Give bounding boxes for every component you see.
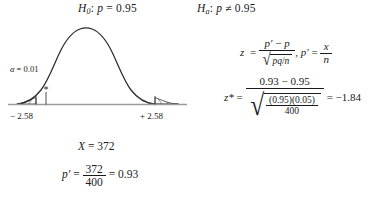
z-second-equals: = [311, 46, 317, 58]
pprime-statement: p′ = 372 400 = 0.93 [62, 163, 138, 188]
z-radicand-n: n [285, 56, 290, 66]
alpha-value: = 0.01 [17, 64, 39, 74]
z-denominator: √pq/n [259, 51, 295, 69]
null-hypothesis-relation: = [106, 2, 113, 14]
radical-sign-icon: √ [263, 51, 271, 69]
alt-hypothesis-label: Ha: p ≠ 0.95 [197, 2, 256, 16]
null-hypothesis-symbol: H [78, 2, 87, 14]
z-second-denominator: n [320, 54, 332, 66]
pprime-prime: ′ [68, 168, 71, 180]
zstar-fraction: 0.93 − 0.95 √ (0.95)(0.05) 400 [246, 76, 324, 120]
z-fraction: p′ − p √pq/n [259, 38, 295, 69]
x-equals: = [88, 140, 95, 152]
right-rejection-region [155, 98, 178, 105]
zstar-inner-denominator: 400 [266, 106, 318, 116]
null-hypothesis-parameter: p [97, 2, 103, 14]
hypothesis-test-figure: H0: p = 0.95 Ha: p ≠ 0.95 [0, 0, 387, 199]
x-symbol: X [78, 140, 85, 152]
pprime-fraction: 372 400 [83, 163, 106, 188]
zstar-numerator-minus: − [282, 75, 288, 87]
right-critical-value-label: + 2.58 [140, 111, 163, 121]
z-equals: = [250, 46, 256, 58]
zstar-numerator-left: 0.93 [260, 75, 279, 87]
zstar-computation: z* = 0.93 − 0.95 √ (0.95)(0.05) 400 = [224, 76, 361, 120]
z-second-pprime: p′ [301, 46, 309, 58]
alt-hypothesis-parameter: p [216, 2, 222, 14]
zstar-symbol: z* [224, 91, 234, 103]
pprime-result-equals: = [109, 168, 116, 180]
zstar-radicand: (0.95)(0.05) 400 [264, 93, 321, 116]
z-formula: z = p′ − p √pq/n , p′ = x n [240, 38, 332, 69]
z-formula-comma: , [295, 46, 298, 58]
null-hypothesis-colon: : [91, 2, 94, 14]
z-second-fraction: x n [320, 41, 332, 65]
alpha-label: α = 0.01 [10, 64, 38, 74]
pprime-denominator: 400 [83, 176, 106, 188]
pprime-equals: = [73, 168, 80, 180]
null-hypothesis-value: 0.95 [116, 2, 137, 14]
x-statement: X = 372 [78, 140, 115, 152]
x-value: 372 [97, 140, 114, 152]
z-numerator-p: p [284, 37, 290, 49]
zstar-result: −1.84 [336, 91, 361, 103]
zstar-inner-numerator: (0.95)(0.05) [266, 95, 318, 106]
zstar-inner-fraction: (0.95)(0.05) 400 [266, 95, 318, 116]
alt-hypothesis-relation: ≠ [225, 2, 232, 14]
alt-hypothesis-value: 0.95 [235, 2, 256, 14]
pprime-numerator: 372 [83, 163, 106, 176]
z-radicand: pq/n [270, 54, 292, 66]
z-radicand-pq: pq [272, 56, 282, 66]
zstar-numerator-right: 0.95 [291, 75, 310, 87]
null-hypothesis-label: H0: p = 0.95 [78, 2, 137, 16]
zstar-equals: = [237, 91, 243, 103]
normal-curve-path [17, 28, 178, 104]
z-symbol: z [240, 46, 245, 58]
zstar-inner-second: (0.05) [292, 95, 315, 105]
z-second-numerator: x [320, 41, 332, 54]
alt-hypothesis-colon: : [210, 2, 213, 14]
zstar-denominator: √ (0.95)(0.05) 400 [246, 89, 324, 121]
zstar-result-equals: = [327, 91, 333, 103]
alt-hypothesis-symbol: H [197, 2, 206, 14]
test-statistic-asterisk: * [44, 84, 49, 95]
radical-sign-icon: √ [250, 89, 264, 121]
z-numerator-prime: ′ [270, 37, 272, 49]
pprime-result: 0.93 [118, 168, 138, 180]
alpha-symbol: α [10, 64, 14, 74]
z-radical: √pq/n [262, 51, 292, 69]
left-critical-value-label: − 2.58 [10, 111, 33, 121]
zstar-inner-first: (0.95) [269, 95, 292, 105]
z-numerator-minus: − [275, 37, 281, 49]
zstar-radical: √ (0.95)(0.05) 400 [249, 89, 321, 121]
